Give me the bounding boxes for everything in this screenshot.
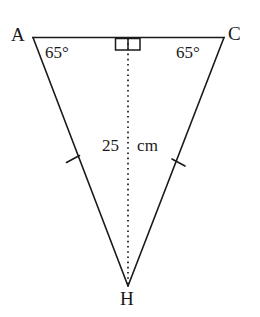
triangle-diagram-svg (0, 0, 260, 317)
angle-label-at-c: 65° (176, 44, 200, 61)
right-angle-icon (116, 39, 141, 51)
geometry-figure: A C H 65° 65° 25cm (0, 0, 260, 317)
altitude-measure-label: 25cm (0, 137, 260, 154)
altitude-measure-number: 25 (102, 136, 119, 155)
vertex-label-c: C (228, 24, 241, 43)
angle-label-at-a: 65° (45, 44, 69, 61)
vertex-label-a: A (11, 25, 25, 44)
side-ah (33, 38, 128, 287)
vertex-label-h: H (120, 289, 134, 308)
altitude-measure-unit: cm (137, 136, 158, 155)
tick-mark-side-ah (67, 156, 80, 163)
